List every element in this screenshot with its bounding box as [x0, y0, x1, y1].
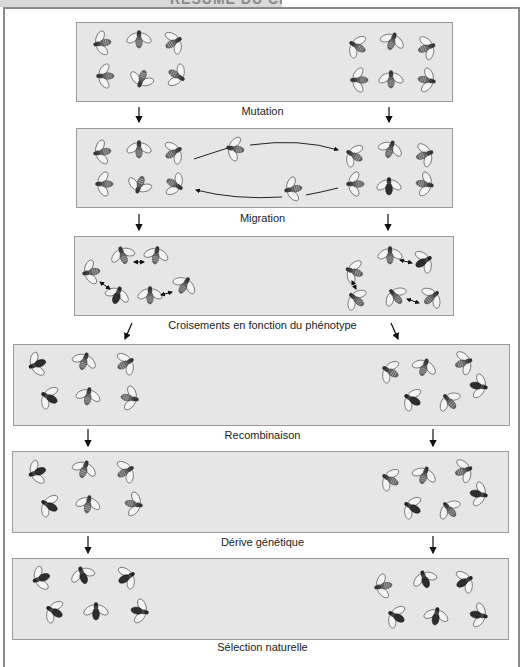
arrow-down-icon [139, 107, 389, 122]
arrow-down-icon [139, 214, 388, 230]
arrow-down-icon [125, 323, 398, 339]
fruit-fly-icon [80, 242, 447, 316]
fruit-fly-icon [91, 26, 440, 95]
arrow-down-icon [88, 536, 433, 553]
fruit-fly-icon [28, 561, 490, 633]
fruit-fly-icon [91, 134, 438, 205]
arrow-down-icon [88, 429, 433, 446]
fruit-fly-icon [24, 347, 490, 417]
curved-arrow-icon [194, 142, 338, 197]
fruit-fly-icon [24, 455, 490, 525]
